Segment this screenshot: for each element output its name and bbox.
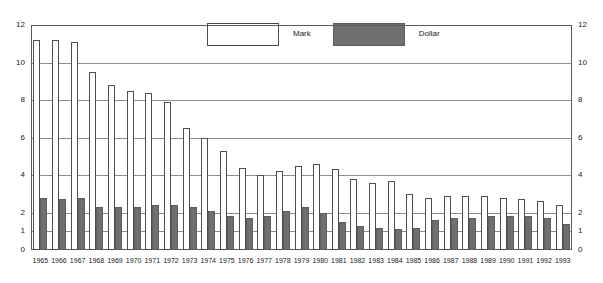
x-tick-1977: 1977 [255,256,274,265]
x-tick-1993: 1993 [553,256,572,265]
y-tick-right-8: 8 [578,96,582,104]
y-tick-left-8: 8 [21,96,25,104]
x-tick-1967: 1967 [68,256,87,265]
x-tick-1988: 1988 [460,256,479,265]
x-tick-1975: 1975 [218,256,237,265]
gridline-4 [32,175,571,176]
x-tick-1984: 1984 [385,256,404,265]
x-tick-1989: 1989 [479,256,498,265]
x-tick-1978: 1978 [274,256,293,265]
y-tick-right-12: 12 [578,21,587,29]
x-tick-1981: 1981 [330,256,349,265]
x-tick-1985: 1985 [404,256,423,265]
plot-area [31,25,572,250]
gridline-2 [32,213,571,214]
x-tick-1979: 1979 [292,256,311,265]
y-tick-left-2: 2 [21,209,25,217]
x-tick-1980: 1980 [311,256,330,265]
x-tick-1974: 1974 [199,256,218,265]
x-tick-1992: 1992 [535,256,554,265]
x-tick-1968: 1968 [87,256,106,265]
x-tick-1983: 1983 [367,256,386,265]
x-tick-1973: 1973 [180,256,199,265]
y-tick-left-12: 12 [16,21,25,29]
x-tick-1965: 1965 [31,256,50,265]
gridline-6 [32,138,571,139]
x-tick-1972: 1972 [162,256,181,265]
x-tick-1990: 1990 [497,256,516,265]
y-tick-right-2: 2 [578,209,582,217]
x-tick-1970: 1970 [124,256,143,265]
x-tick-1991: 1991 [516,256,535,265]
x-tick-1976: 1976 [236,256,255,265]
y-tick-right-4: 4 [578,171,582,179]
bar-chart: Mark Dollar 00112244668810101212 1965196… [0,0,603,283]
y-tick-right-10: 10 [578,59,587,67]
x-axis-label-layer: 1965196619671968196919701971197219731974… [31,256,572,265]
gridline-12 [32,25,571,26]
y-tick-left-10: 10 [16,59,25,67]
y-tick-left-0: 0 [21,246,25,254]
y-tick-right-0: 0 [578,246,582,254]
y-tick-left-6: 6 [21,134,25,142]
gridline-10 [32,63,571,64]
y-tick-left-1: 1 [21,227,25,235]
x-tick-1982: 1982 [348,256,367,265]
x-tick-1987: 1987 [441,256,460,265]
x-tick-1966: 1966 [50,256,69,265]
x-tick-1969: 1969 [106,256,125,265]
y-tick-right-1: 1 [578,227,582,235]
x-tick-1986: 1986 [423,256,442,265]
gridline-1 [32,231,571,232]
gridline-8 [32,100,571,101]
y-tick-right-6: 6 [578,134,582,142]
y-tick-left-4: 4 [21,171,25,179]
x-tick-1971: 1971 [143,256,162,265]
